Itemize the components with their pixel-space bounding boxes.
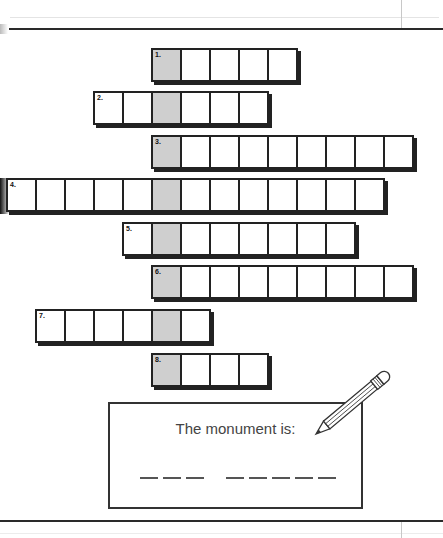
letter-cell[interactable] [211, 93, 240, 123]
word-row-8: 8. [151, 353, 269, 387]
letter-cell[interactable] [327, 180, 356, 210]
clue-number: 2. [97, 94, 103, 101]
letter-cell[interactable] [211, 180, 240, 210]
letter-cell[interactable] [182, 311, 209, 341]
letter-cell[interactable] [182, 137, 211, 167]
letter-cell[interactable] [269, 180, 298, 210]
letter-cell-highlighted[interactable] [153, 224, 182, 254]
letter-cell[interactable] [182, 50, 211, 80]
letter-cell[interactable] [356, 137, 385, 167]
letter-cell[interactable]: 7. [37, 311, 66, 341]
word-row-3: 3. [151, 135, 414, 169]
letter-cell[interactable] [95, 180, 124, 210]
letter-cell-highlighted[interactable]: 8. [153, 355, 182, 385]
word-row-5: 5. [122, 222, 356, 256]
top-faint-rule [10, 17, 439, 18]
letter-cell[interactable] [211, 137, 240, 167]
answer-letter-blank[interactable] [226, 477, 244, 479]
letter-cell[interactable] [240, 93, 267, 123]
letter-cell[interactable] [211, 224, 240, 254]
letter-cell[interactable]: 5. [124, 224, 153, 254]
letter-cell[interactable] [124, 93, 153, 123]
answer-letter-blank[interactable] [140, 477, 158, 479]
letter-cell[interactable] [298, 224, 327, 254]
top-tick-mark [401, 0, 402, 28]
letter-cell[interactable] [298, 137, 327, 167]
pencil-icon [312, 366, 402, 438]
letter-cell[interactable] [240, 224, 269, 254]
letter-cell-highlighted[interactable]: 6. [153, 267, 182, 297]
bottom-faint-rule [0, 533, 443, 534]
answer-letter-blank[interactable] [318, 477, 336, 479]
answer-letter-blank[interactable] [249, 477, 267, 479]
letter-cell[interactable] [66, 311, 95, 341]
clue-number: 1. [155, 51, 161, 58]
letter-cell[interactable] [240, 267, 269, 297]
letter-cell[interactable] [182, 180, 211, 210]
letter-cell[interactable] [182, 224, 211, 254]
letter-cell[interactable] [385, 137, 412, 167]
letter-cell[interactable] [211, 50, 240, 80]
letter-cell-highlighted[interactable] [153, 180, 182, 210]
letter-cell[interactable] [124, 311, 153, 341]
letter-cell[interactable] [182, 93, 211, 123]
word-row-7: 7. [35, 309, 211, 343]
bottom-rule [0, 520, 443, 522]
answer-letter-blank[interactable] [272, 477, 290, 479]
letter-cell[interactable] [211, 267, 240, 297]
letter-cell[interactable]: 2. [95, 93, 124, 123]
letter-cell[interactable] [269, 267, 298, 297]
word-row-2: 2. [93, 91, 269, 125]
letter-cell[interactable] [298, 267, 327, 297]
letter-cell[interactable] [240, 50, 269, 80]
letter-cell[interactable]: 4. [8, 180, 37, 210]
clue-number: 7. [39, 312, 45, 319]
letter-cell[interactable] [269, 224, 298, 254]
word-gap [209, 477, 221, 479]
clue-number: 5. [126, 225, 132, 232]
letter-cell[interactable] [240, 355, 267, 385]
top-rule [9, 28, 443, 30]
word-row-1: 1. [151, 48, 298, 82]
clue-number: 3. [155, 138, 161, 145]
answer-letter-blank[interactable] [163, 477, 181, 479]
page-edge-shadow-top [0, 24, 8, 34]
word-row-6: 6. [151, 265, 414, 299]
letter-cell[interactable] [182, 355, 211, 385]
letter-cell-highlighted[interactable] [153, 93, 182, 123]
letter-cell[interactable] [327, 137, 356, 167]
letter-cell[interactable] [356, 267, 385, 297]
letter-cell-highlighted[interactable]: 3. [153, 137, 182, 167]
letter-cell[interactable] [356, 180, 383, 210]
letter-cell[interactable] [37, 180, 66, 210]
letter-cell[interactable] [240, 180, 269, 210]
clue-number: 4. [10, 181, 16, 188]
word-row-4: 4. [6, 178, 385, 212]
letter-cell[interactable] [269, 137, 298, 167]
letter-cell[interactable] [211, 355, 240, 385]
letter-cell[interactable] [385, 267, 412, 297]
letter-cell[interactable] [240, 137, 269, 167]
letter-cell[interactable] [95, 311, 124, 341]
letter-cell[interactable] [298, 180, 327, 210]
letter-cell-highlighted[interactable]: 1. [153, 50, 182, 80]
answer-letter-blank[interactable] [186, 477, 204, 479]
answer-letter-blank[interactable] [295, 477, 313, 479]
clue-number: 6. [155, 268, 161, 275]
letter-cell[interactable] [327, 224, 354, 254]
answer-blanks[interactable] [140, 477, 336, 479]
letter-cell-highlighted[interactable] [153, 311, 182, 341]
letter-cell[interactable] [124, 180, 153, 210]
bottom-tick-mark [401, 522, 402, 538]
letter-cell[interactable] [182, 267, 211, 297]
clue-number: 8. [155, 356, 161, 363]
letter-cell[interactable] [327, 267, 356, 297]
letter-cell[interactable] [269, 50, 296, 80]
letter-cell[interactable] [66, 180, 95, 210]
